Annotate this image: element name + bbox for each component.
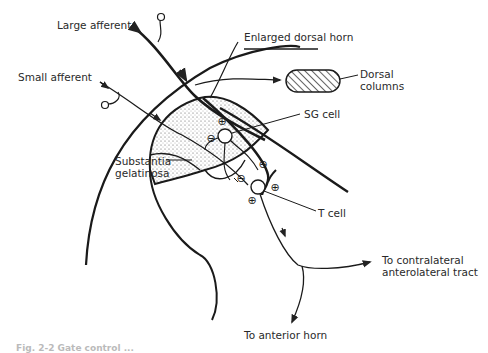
t-cell-body	[251, 180, 265, 194]
label-dorsal-columns: Dorsal columns	[360, 68, 404, 92]
label-to-anterior-horn: To anterior horn	[244, 329, 327, 341]
label-small-afferent: Small afferent	[18, 71, 92, 83]
dorsal-horn-outline	[150, 170, 217, 320]
t-cell-axon	[260, 194, 370, 268]
label-substantia-gelatinosa: Substantia gelatinosa	[115, 155, 171, 179]
large-afferent-cell-stem	[158, 20, 161, 42]
branch-to-anterior-horn	[292, 266, 304, 322]
inhibitory-synapse-1: ⊖	[258, 158, 267, 171]
branch-line-up	[210, 42, 238, 98]
sg-cell-body	[218, 129, 232, 143]
label-to-contralateral: To contralateral anterolateral tract	[382, 254, 478, 278]
label-sg-cell: SG cell	[304, 108, 340, 120]
excitatory-synapse-sg: ⊕	[217, 115, 226, 128]
label-large-afferent: Large afferent	[57, 19, 131, 31]
branch-to-dorsal-columns	[195, 79, 280, 85]
excitatory-synapse-t2: ⊕	[247, 194, 256, 207]
small-afferent-cell-body	[102, 102, 109, 109]
excitatory-synapse-t1: ⊕	[270, 181, 279, 194]
label-t-cell: T cell	[318, 207, 346, 219]
label-enlarged-dorsal-horn: Enlarged dorsal horn	[244, 31, 353, 43]
figure-caption: Fig. 2-2 Gate control ...	[16, 343, 134, 353]
dorsal-columns-shape	[286, 70, 340, 92]
inhibitory-synapse-2: ⊖	[236, 172, 245, 185]
inhibitory-synapse-sg: ⊖	[206, 132, 215, 145]
large-afferent-cell-body	[158, 14, 165, 21]
